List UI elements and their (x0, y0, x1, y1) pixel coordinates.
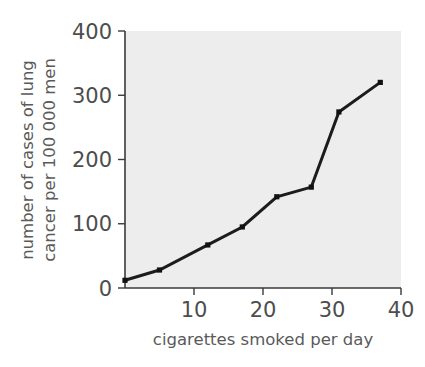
x-tick-label-20: 20 (250, 298, 277, 322)
y-tick-label-300: 300 (72, 84, 112, 108)
y-tick-label-200: 200 (72, 148, 112, 172)
data-point (309, 185, 314, 190)
y-axis-title-line1: number of cases of lung (18, 60, 37, 260)
x-tick-label-30: 30 (319, 298, 346, 322)
y-axis-title-line2: cancer per 100 000 men (40, 58, 59, 262)
y-tick-label-400: 400 (72, 20, 112, 44)
x-tick-label-40: 40 (388, 298, 415, 322)
data-point (205, 242, 210, 247)
x-tick-label-10: 10 (181, 298, 208, 322)
y-tick-label-0: 0 (99, 277, 112, 301)
chart-figure: 400 300 200 100 0 10 20 30 40 cigarettes… (0, 0, 425, 367)
data-point (157, 267, 162, 272)
data-point (378, 80, 383, 85)
y-tick-label-100: 100 (72, 212, 112, 236)
data-point (122, 278, 127, 283)
data-point (274, 194, 279, 199)
data-point (336, 109, 341, 114)
data-point (240, 224, 245, 229)
plot-area-background (125, 31, 401, 288)
x-axis-title: cigarettes smoked per day (153, 330, 374, 349)
line-chart: 400 300 200 100 0 10 20 30 40 cigarettes… (0, 0, 425, 367)
